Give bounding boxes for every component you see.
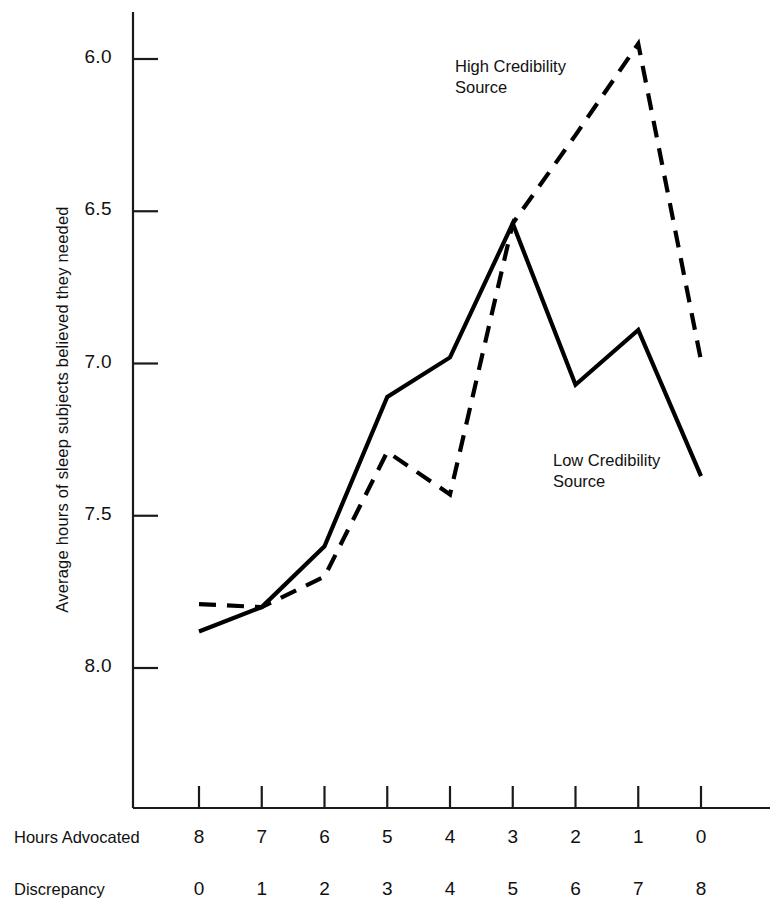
x-axis-tick-label: 1 [247, 878, 277, 900]
x-axis-tick-label: 4 [435, 878, 465, 900]
y-axis-tick-label: 6.5 [48, 198, 112, 220]
x-axis-tick-label: 6 [310, 826, 340, 848]
x-axis-tick-label: 3 [498, 826, 528, 848]
x-axis-row-label-hours-advocated: Hours Advocated [14, 828, 140, 847]
annotation-high-credibility-source: High Credibility Source [455, 56, 566, 98]
x-axis-tick-label: 3 [372, 878, 402, 900]
x-axis-tick-label: 7 [247, 826, 277, 848]
x-axis-tick-label: 1 [623, 826, 653, 848]
series-line-low-credibility-source [199, 223, 701, 631]
x-axis-tick-label: 5 [498, 878, 528, 900]
x-axis-tick-label: 0 [686, 826, 716, 848]
x-axis-ticks [199, 786, 701, 808]
y-axis-tick-label: 7.0 [48, 351, 112, 373]
y-axis-ticks [133, 59, 158, 668]
y-axis-tick-label: 7.5 [48, 503, 112, 525]
x-axis-tick-label: 8 [686, 878, 716, 900]
x-axis-tick-label: 7 [623, 878, 653, 900]
x-axis-tick-label: 8 [184, 826, 214, 848]
x-axis-tick-label: 5 [372, 826, 402, 848]
x-axis-tick-label: 6 [561, 878, 591, 900]
annotation-low-credibility-source: Low Credibility Source [553, 450, 660, 492]
chart-figure: Average hours of sleep subjects believed… [0, 0, 784, 913]
data-series-group [199, 44, 701, 632]
series-line-high-credibility-source [199, 44, 701, 607]
x-axis-tick-label: 2 [310, 878, 340, 900]
x-axis-row-label-discrepancy: Discrepancy [14, 880, 105, 899]
x-axis-tick-label: 0 [184, 878, 214, 900]
chart-plot-area [0, 0, 784, 913]
y-axis-tick-label: 8.0 [48, 655, 112, 677]
x-axis-tick-label: 4 [435, 826, 465, 848]
y-axis-title: Average hours of sleep subjects believed… [53, 200, 72, 620]
y-axis-tick-label: 6.0 [48, 46, 112, 68]
x-axis-tick-label: 2 [561, 826, 591, 848]
